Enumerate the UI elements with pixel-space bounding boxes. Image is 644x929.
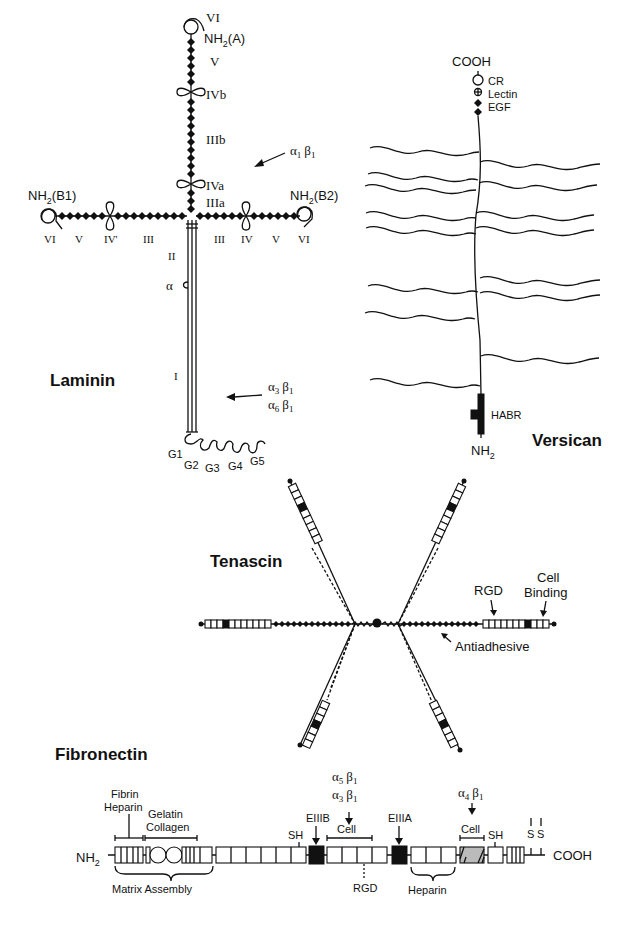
laminin-long-arm (184, 220, 266, 453)
laminin-b2-v-label: V (272, 233, 280, 245)
figure-canvas: VI NH2(A) V IVb IIIb IVa IIIa NH2(B1) VI… (0, 0, 644, 929)
laminin-g5-label: G5 (250, 455, 265, 467)
laminin-a-iiia-label: IIIa (206, 195, 225, 210)
fibronectin-gelatin-label: Gelatin (148, 808, 183, 820)
laminin-receptor-a1b1: α1β1 (254, 143, 315, 167)
laminin-g3-label: G3 (205, 462, 220, 474)
fibronectin-a4b1-label: α4β1 (458, 785, 483, 802)
fibronectin-cell1-label: Cell (337, 823, 356, 835)
fibronectin-s2-label: S (537, 828, 544, 840)
laminin-alpha-label: α (166, 278, 173, 293)
versican-nh2-label: NH2 (471, 443, 495, 461)
fibronectin-heparin-top-label: Heparin (104, 801, 143, 813)
laminin-g1-label: G1 (168, 448, 183, 460)
laminin-b1-chain (41, 202, 187, 230)
svg-text:α1β1: α1β1 (290, 143, 315, 160)
laminin-a-vi-label: VI (206, 10, 220, 25)
tenascin-binding-label: Binding (524, 585, 567, 600)
laminin-a-ivb-label: IVb (206, 87, 226, 102)
fibronectin-a5b1-label: α5β1 (332, 769, 357, 786)
laminin-receptor-a3b1-a6b1: α3β1 α6β1 (226, 379, 293, 414)
fibronectin-nh2-label: NH2 (76, 850, 100, 868)
tenascin-antiadhesive-label: Antiadhesive (455, 639, 529, 654)
laminin-nh2-a-label: NH2(A) (204, 31, 245, 49)
tenascin-rgd-label: RGD (474, 583, 503, 598)
fibronectin-rgd-label: RGD (353, 882, 378, 894)
fibronectin-a3b1-label: α3β1 (332, 787, 357, 804)
versican-title: Versican (532, 431, 602, 450)
fibronectin-sh1-label: SH (288, 829, 303, 841)
laminin-b2-iii-label: III (214, 233, 225, 245)
laminin-diagram: VI NH2(A) V IVb IIIb IVa IIIa NH2(B1) VI… (28, 10, 338, 474)
versican-lectin-label: Lectin (488, 88, 517, 100)
fibronectin-cooh-label: COOH (553, 848, 592, 863)
svg-text:α3β1: α3β1 (268, 379, 293, 396)
fibronectin-fibrin-label: Fibrin (111, 788, 139, 800)
fibronectin-cell2-label: Cell (461, 823, 480, 835)
fibronectin-sh2-label: SH (488, 829, 503, 841)
tenascin-title: Tenascin (210, 552, 282, 571)
laminin-b1-iii-label: III (143, 233, 154, 245)
laminin-b1-vi-label: VI (44, 233, 56, 245)
laminin-b1-v-label: V (75, 233, 83, 245)
fibronectin-matrix-assembly-label: Matrix Assembly (112, 883, 193, 895)
laminin-b2-vi-label: VI (298, 233, 310, 245)
versican-habr-label: HABR (491, 409, 522, 421)
fibronectin-s1-label: S (527, 828, 534, 840)
versican-cooh-label: COOH (452, 54, 491, 69)
svg-text:α6β1: α6β1 (268, 397, 293, 414)
laminin-a-v-label: V (210, 54, 220, 69)
laminin-a-chain (177, 19, 205, 213)
laminin-b2-iv-label: IV (241, 233, 253, 245)
laminin-a-iva-label: IVa (206, 178, 224, 193)
laminin-i-label: I (174, 370, 178, 382)
fibronectin-heparin-bottom-label: Heparin (408, 884, 447, 896)
versican-diagram: COOH CR Lectin EGF HABR NH2 (365, 54, 602, 461)
laminin-nh2-b1-label: NH2(B1) (28, 188, 76, 206)
laminin-title: Laminin (50, 371, 115, 390)
laminin-ii-label: II (168, 250, 176, 262)
fibronectin-eiiia-label: EIIIA (388, 812, 413, 824)
laminin-b1-iv-label: IV' (104, 233, 118, 245)
laminin-nh2-b2-label: NH2(B2) (290, 188, 338, 206)
versican-cr-label: CR (488, 75, 504, 87)
laminin-g4-label: G4 (228, 460, 243, 472)
laminin-g2-label: G2 (184, 459, 199, 471)
versican-egf-label: EGF (488, 101, 511, 113)
fibronectin-eiiib-label: EIIIB (306, 812, 330, 824)
fibronectin-diagram: Fibronectin NH2 SH EIIIB RGD Cell α (55, 745, 592, 896)
laminin-a-iiib-label: IIIb (206, 132, 226, 147)
tenascin-diagram: RGD Cell Binding Antiadhesive Tenascin (199, 479, 568, 753)
fibronectin-title: Fibronectin (55, 745, 148, 764)
fibronectin-collagen-label: Collagen (146, 821, 189, 833)
tenascin-cell-label: Cell (537, 570, 560, 585)
